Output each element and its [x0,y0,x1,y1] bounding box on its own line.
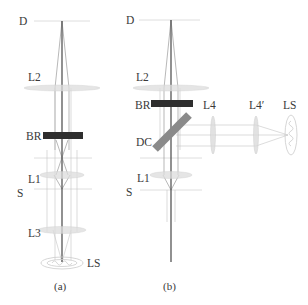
beam-rejector-a [43,132,83,139]
panel-a: D L2 BR L1 S L3 LS (a) [17,15,100,293]
optics-diagram: D L2 BR L1 S L3 LS (a) [0,0,308,305]
label-l4-prime: L4′ [249,99,264,111]
beam-rejector-b [151,100,193,107]
label-l1-b: L1 [137,172,150,184]
label-l1-a: L1 [28,173,41,185]
label-l3-a: L3 [28,227,41,239]
label-ls-a: LS [87,257,100,269]
lens-l1-b [150,172,192,179]
label-detector-a: D [19,15,27,27]
lens-l1-a [40,172,84,179]
label-detector-b: D [126,14,134,26]
lens-l2-b [133,85,209,91]
panel-b: D L2 BR DC L1 S L4 L4′ LS (b) [126,14,297,293]
label-dc: DC [136,136,152,148]
caption-a: (a) [54,280,67,293]
label-br-b: BR [135,99,151,111]
lens-l4 [211,116,216,154]
caption-b: (b) [163,280,176,293]
label-ls-b: LS [283,99,296,111]
label-s-a: S [17,187,23,199]
lens-l2-a [24,85,100,91]
lens-l4-prime [254,116,259,154]
label-br-a: BR [26,130,42,142]
label-l2-b: L2 [136,71,149,83]
label-l2-a: L2 [28,71,41,83]
label-l4: L4 [203,99,216,111]
lens-l3-a [38,227,86,234]
label-s-b: S [126,186,132,198]
